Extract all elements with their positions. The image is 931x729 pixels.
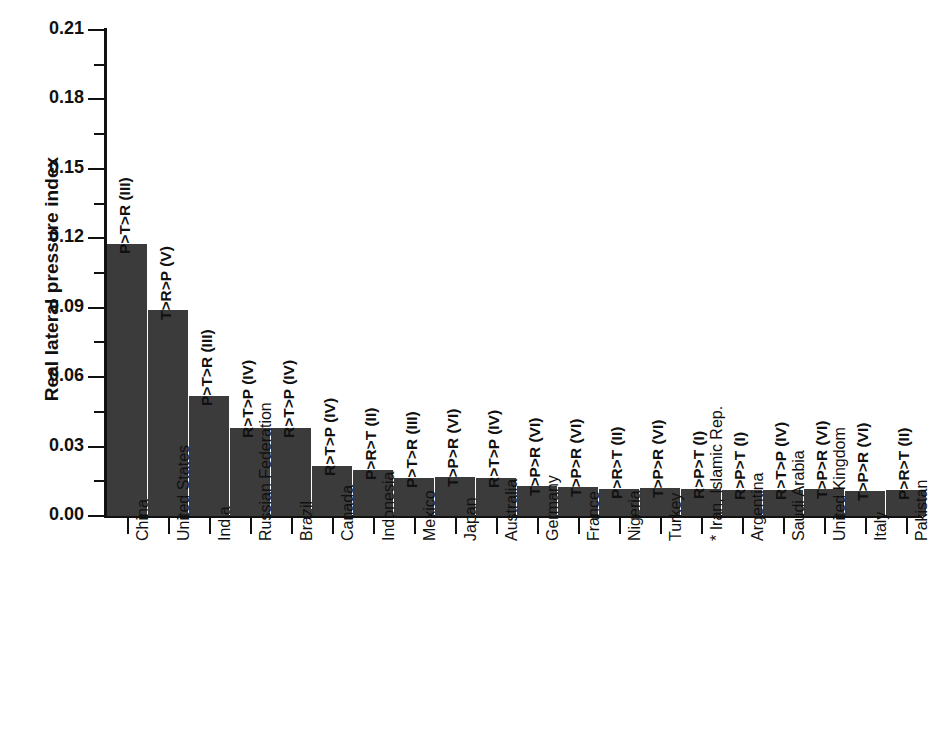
bar-annotation-label: R>T>P (IV) — [239, 360, 257, 438]
x-category-label: Canada — [339, 485, 357, 541]
y-tick-label: 0.12 — [4, 226, 84, 247]
y-tick-minor — [94, 272, 105, 274]
y-tick-minor — [94, 480, 105, 482]
bar-annotation-label: P>T>R (III) — [198, 329, 216, 406]
x-category-label: Japan — [462, 497, 480, 541]
bar-chart: Real lateral pressure index 0.000.030.06… — [0, 0, 931, 729]
x-tick — [537, 517, 539, 534]
y-tick-major — [88, 168, 105, 170]
x-tick — [455, 517, 457, 534]
bar-annotation-label: R>P>T (I) — [731, 432, 749, 500]
bar-annotation-label: P>T>R (III) — [403, 411, 421, 488]
x-tick — [373, 517, 375, 534]
y-tick-minor — [94, 64, 105, 66]
x-category-label: Russian Federation — [257, 402, 275, 541]
x-category-label: Turkey — [667, 493, 685, 541]
bar[interactable] — [107, 244, 147, 516]
x-tick — [578, 517, 580, 534]
x-tick — [496, 517, 498, 534]
y-tick-label: 0.00 — [4, 504, 84, 525]
x-category-label: Mexico — [421, 490, 439, 541]
y-tick-major — [88, 29, 105, 31]
x-tick — [865, 517, 867, 534]
x-category-label: France — [585, 491, 603, 541]
x-category-label: Nigeria — [626, 490, 644, 541]
bar-annotation-label: P>R>T (II) — [362, 407, 380, 479]
bar[interactable] — [189, 396, 229, 516]
x-tick — [414, 517, 416, 534]
y-tick-major — [88, 98, 105, 100]
y-tick-major — [88, 515, 105, 517]
x-tick — [742, 517, 744, 534]
bar-annotation-label: R>T>P (IV) — [485, 410, 503, 488]
bar-annotation-label: T>P>R (VI) — [649, 420, 667, 498]
bar-annotation-label: T>P>R (VI) — [813, 421, 831, 499]
bar-annotation-label: P>R>T (II) — [895, 428, 913, 500]
bar-annotation-label: P>R>T (II) — [608, 426, 626, 498]
x-tick — [250, 517, 252, 534]
x-category-label: Pakistan — [913, 480, 931, 541]
y-tick-label: 0.06 — [4, 365, 84, 386]
x-category-label: China — [134, 499, 152, 541]
bar-annotation-label: R>T>P (IV) — [772, 422, 790, 500]
bar-annotation-label: T>P>R (VI) — [567, 419, 585, 497]
bar-annotation-label: T>P>R (VI) — [854, 422, 872, 500]
y-tick-label: 0.09 — [4, 296, 84, 317]
x-tick — [701, 517, 703, 534]
y-tick-major — [88, 446, 105, 448]
bar-annotation-label: R>T>P (IV) — [321, 398, 339, 476]
x-category-label: United States — [175, 445, 193, 541]
x-category-label: Indonesia — [380, 472, 398, 541]
x-tick — [332, 517, 334, 534]
x-tick — [168, 517, 170, 534]
x-tick — [824, 517, 826, 534]
bar-annotation-label: T>R>P (V) — [157, 246, 175, 320]
y-tick-minor — [94, 203, 105, 205]
x-category-label: * Iran, Islamic Rep. — [708, 406, 726, 541]
x-category-label: United Kingdom — [831, 427, 849, 541]
x-category-label: India — [216, 506, 234, 541]
x-category-label: Germany — [544, 475, 562, 541]
x-tick — [209, 517, 211, 534]
y-tick-label: 0.15 — [4, 157, 84, 178]
y-tick-minor — [94, 133, 105, 135]
y-tick-label: 0.03 — [4, 435, 84, 456]
x-tick — [291, 517, 293, 534]
x-tick — [619, 517, 621, 534]
y-tick-minor — [94, 341, 105, 343]
y-tick-major — [88, 376, 105, 378]
x-tick — [783, 517, 785, 534]
x-category-label: Argentina — [749, 473, 767, 542]
x-tick — [660, 517, 662, 534]
y-tick-label: 0.21 — [4, 18, 84, 39]
bar-annotation-label: T>P>R (VI) — [526, 418, 544, 496]
x-tick — [906, 517, 908, 534]
y-tick-minor — [94, 411, 105, 413]
x-category-label: Saudi Arabia — [790, 450, 808, 541]
bar-annotation-label: T>P>R (VI) — [444, 408, 462, 486]
bar-annotation-label: R>P>T (I) — [690, 431, 708, 499]
y-tick-label: 0.18 — [4, 87, 84, 108]
x-tick — [127, 517, 129, 534]
y-tick-major — [88, 307, 105, 309]
x-category-label: Brazil — [298, 501, 316, 541]
x-category-label: Australia — [503, 479, 521, 541]
y-tick-major — [88, 237, 105, 239]
bar-annotation-label: P>T>R (III) — [116, 177, 134, 254]
bar-annotation-label: R>T>P (IV) — [280, 360, 298, 438]
x-category-label: Italy — [872, 512, 890, 541]
